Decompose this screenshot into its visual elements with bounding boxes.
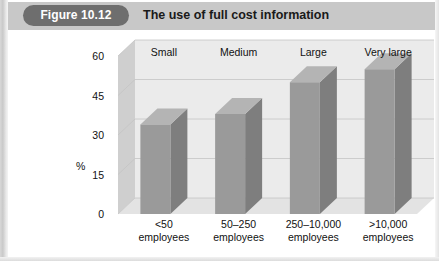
- figure-panel: Figure 10.12 The use of full cost inform…: [0, 0, 439, 261]
- y-tick-label: 60: [74, 51, 104, 62]
- page-edge-left: [0, 0, 8, 261]
- page-edge-right: [435, 0, 439, 261]
- y-tick-label: 0: [74, 209, 104, 220]
- x-tick-label: >10,000employees: [343, 218, 433, 244]
- series-label: Medium: [199, 46, 279, 58]
- series-label: Large: [273, 46, 353, 58]
- page-edge-bottom: [0, 257, 439, 261]
- figure-title: The use of full cost information: [143, 5, 329, 26]
- chart-area: 015304560 % SmallMediumLargeVery large <…: [8, 30, 435, 257]
- series-label: Very large: [348, 46, 428, 58]
- y-tick-label: 45: [74, 91, 104, 102]
- series-label: Small: [124, 46, 204, 58]
- y-axis-label: %: [76, 160, 85, 172]
- x-tick-label-line: >10,000: [343, 218, 433, 231]
- figure-number-badge: Figure 10.12: [23, 5, 129, 26]
- x-tick-label-line: employees: [343, 231, 433, 244]
- y-tick-label: 30: [74, 130, 104, 141]
